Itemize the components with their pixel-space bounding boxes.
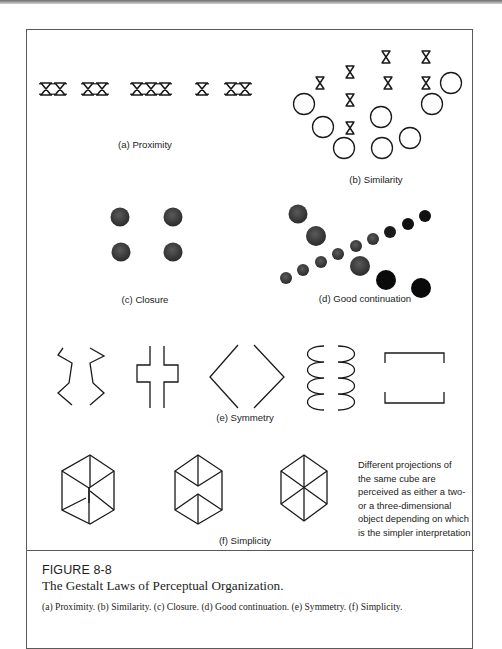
simplicity-note: Different projections of the same cube a… xyxy=(358,458,478,540)
symmetry-shapes xyxy=(58,345,444,410)
note-line: perceived as either a two- xyxy=(358,485,478,499)
simplicity-label: (f) Simplicity xyxy=(219,535,271,546)
symmetry-label: (e) Symmetry xyxy=(216,412,274,423)
proximity-label: (a) Proximity xyxy=(118,139,172,150)
closure-dots xyxy=(111,208,183,262)
note-line: is the simpler interpretation xyxy=(358,526,478,540)
note-line: object depending on which xyxy=(358,512,478,526)
simplicity-cubes xyxy=(62,455,327,524)
similarity-label: (b) Similarity xyxy=(349,174,402,185)
figure-number: FIGURE 8-8 xyxy=(42,563,112,577)
figure-caption: (a) Proximity. (b) Similarity. (c) Closu… xyxy=(42,601,402,612)
similarity-hourglasses xyxy=(316,51,431,134)
note-line: the same cube are xyxy=(358,472,478,486)
note-line: Different projections of xyxy=(358,458,478,472)
continuation-label: (d) Good continuation xyxy=(319,293,411,304)
figure-title: The Gestalt Laws of Perceptual Organizat… xyxy=(42,578,283,594)
note-line: or a three-dimensional xyxy=(358,499,478,513)
proximity-pattern xyxy=(40,83,251,95)
closure-label: (c) Closure xyxy=(122,294,169,305)
continuation-dots xyxy=(280,205,431,299)
